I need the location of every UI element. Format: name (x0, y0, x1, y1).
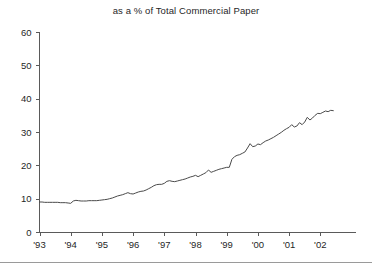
x-tick-group: '93'94'95'96'97'98'99'00'01'02 (33, 232, 326, 250)
line-chart-plot: 0102030405060 '93'94'95'96'97'98'99'00'0… (0, 0, 372, 262)
bottom-divider (0, 262, 372, 263)
y-tick-label: 60 (21, 27, 32, 38)
x-tick-label: '95 (96, 239, 108, 250)
y-tick-label: 20 (21, 160, 32, 171)
x-tick-label: '98 (189, 239, 201, 250)
y-tick-group: 0102030405060 (21, 27, 40, 238)
x-tick-label: '01 (283, 239, 295, 250)
x-tick-label: '97 (158, 239, 170, 250)
x-tick-label: '00 (252, 239, 264, 250)
y-tick-label: 0 (26, 227, 31, 238)
y-tick-label: 40 (21, 93, 32, 104)
x-tick-label: '93 (33, 239, 45, 250)
data-series-line (40, 110, 334, 203)
x-tick-label: '94 (65, 239, 77, 250)
y-tick-label: 10 (21, 193, 32, 204)
x-tick-label: '99 (221, 239, 233, 250)
x-tick-label: '02 (314, 239, 326, 250)
y-tick-label: 50 (21, 60, 32, 71)
chart-figure: as a % of Total Commercial Paper 0102030… (0, 0, 372, 270)
x-tick-label: '96 (127, 239, 139, 250)
y-tick-label: 30 (21, 127, 32, 138)
